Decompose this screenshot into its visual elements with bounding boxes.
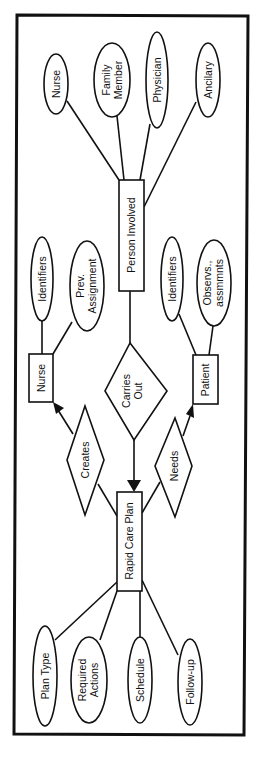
attribute-label: Required (76, 659, 88, 702)
edge-rcp-plantype (55, 582, 117, 640)
edge-needs-patient (183, 416, 190, 436)
attribute-label: Observs., (201, 261, 213, 306)
edge-creates-nurse (58, 410, 73, 434)
relationship-needs: Needs (155, 418, 192, 517)
entity-person-involved: Person Involved (119, 180, 144, 291)
edge-rcp-creates (98, 484, 117, 516)
attribute-label: Physician (151, 57, 163, 102)
attribute-rcp-schedule: Schedule (128, 637, 152, 723)
attribute-pi-ancilary: Ancilary (196, 43, 220, 117)
edge-pi-physician (140, 124, 150, 180)
attribute-nurse-prev-assignment: Prev. Assignment (70, 241, 104, 331)
arrow-to-rapid-care-plan (127, 480, 141, 492)
edge-patient-observs (209, 326, 213, 355)
attribute-label: assmmnts (213, 259, 225, 307)
entity-rapid-care-plan: Rapid Care Plan (117, 492, 142, 591)
edge-patient-identifiers (179, 314, 196, 355)
attribute-pi-family-member: Family Member (94, 43, 130, 117)
attribute-label: Actions (88, 663, 100, 697)
relationship-label: Needs (168, 451, 180, 481)
attribute-patient-observs: Observs., assmmnts (197, 240, 231, 326)
edge-pi-family (117, 116, 124, 180)
edge-nurse-prev (53, 322, 72, 354)
entity-label: Person Involved (125, 197, 137, 272)
attribute-patient-identifiers: Identifiers (161, 237, 183, 321)
edge-rcp-followup (142, 580, 178, 655)
attribute-label: Follow-up (184, 659, 196, 705)
arrow-to-patient (186, 404, 194, 418)
attribute-label: Identifiers (166, 256, 178, 302)
edge-rcp-required (100, 591, 117, 640)
attribute-label: Schedule (134, 658, 146, 702)
attribute-label: Nurse (50, 70, 62, 98)
entity-patient: Patient (193, 355, 218, 404)
relationship-label: Carries (120, 374, 132, 408)
attribute-label: Ancilary (202, 61, 214, 99)
entity-label: Nurse (35, 364, 47, 392)
entity-label: Rapid Care Plan (123, 502, 135, 579)
attribute-nurse-identifiers: Identifiers (31, 237, 53, 321)
attribute-rcp-required-actions: Required Actions (71, 637, 107, 723)
attribute-label: Prev. (74, 274, 86, 298)
relationship-label: Out (132, 382, 144, 399)
relationship-label: Creates (79, 442, 91, 479)
attribute-rcp-follow-up: Follow-up (178, 639, 202, 725)
attribute-label: Identifiers (36, 256, 48, 302)
attribute-label: Assignment (86, 258, 98, 313)
attribute-pi-physician: Physician (146, 32, 168, 128)
entity-label: Patient (199, 364, 211, 397)
entity-nurse: Nurse (29, 354, 53, 402)
edge-rcp-needs (142, 482, 160, 513)
attribute-pi-nurse: Nurse (44, 54, 68, 114)
relationship-carries-out: Carries Out (105, 343, 167, 440)
attribute-label: Family (100, 64, 112, 96)
attribute-label: Plan Type (39, 653, 51, 700)
er-diagram: Nurse Family Member Physician Ancilary I… (0, 0, 258, 757)
relationship-creates: Creates (67, 406, 104, 515)
attribute-rcp-plan-type: Plan Type (33, 626, 57, 726)
attribute-label: Member (112, 60, 124, 99)
